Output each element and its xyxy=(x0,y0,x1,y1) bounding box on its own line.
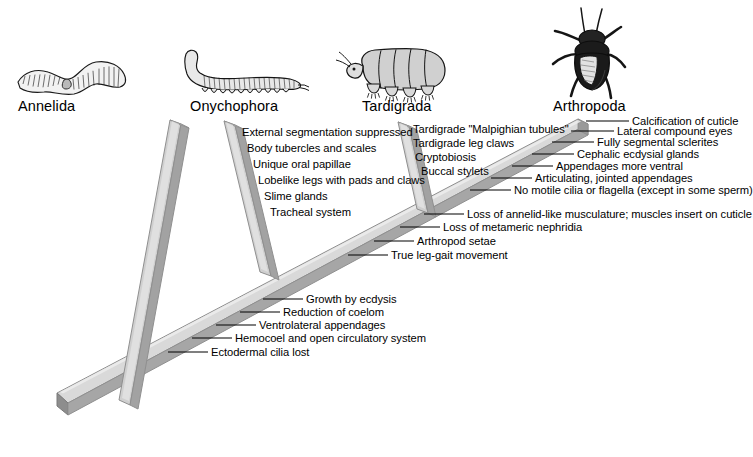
character-label-tardigrade-leg-claws: Tardigrade leg claws xyxy=(413,137,514,149)
character-label-external-segmentation: External segmentation suppressed xyxy=(242,126,413,138)
character-label-tracheal-system: Tracheal system xyxy=(270,206,351,218)
character-label-slime-glands: Slime glands xyxy=(264,190,327,202)
character-label-hemocoel: Hemocoel and open circulatory system xyxy=(235,332,426,344)
character-label-growth-by-ecdysis: Growth by ecdysis xyxy=(306,293,397,305)
character-label-leg-gait: True leg-gait movement xyxy=(391,249,508,261)
character-label-sclerites: Fully segmental sclerites xyxy=(597,136,718,148)
character-label-ecdysial-glands: Cephalic ecdysial glands xyxy=(577,148,699,160)
character-label-no-motile-cilia: No motile cilia or flagella (except in s… xyxy=(514,184,753,196)
waterbear-illustration xyxy=(336,49,445,103)
character-label-ventrolateral-appendages: Ventrolateral appendages xyxy=(259,319,385,331)
beetle-illustration xyxy=(553,8,625,98)
character-label-arthropod-setae: Arthropod setae xyxy=(417,235,496,247)
taxon-label-arthropoda: Arthropoda xyxy=(553,98,626,114)
character-label-malpighian-tubules: Tardigrade "Malpighian tubules" xyxy=(413,123,569,135)
character-label-lobelike-legs: Lobelike legs with pads and claws xyxy=(258,174,425,186)
character-label-oral-papillae: Unique oral papillae xyxy=(253,158,351,170)
taxon-label-tardigrada: Tardigrada xyxy=(362,98,432,114)
earthworm-illustration xyxy=(18,62,126,95)
character-label-metameric-nephridia: Loss of metameric nephridia xyxy=(443,221,582,233)
taxon-label-onychophora: Onychophora xyxy=(190,98,278,114)
character-label-ectodermal-cilia-lost: Ectodermal cilia lost xyxy=(211,346,309,358)
character-label-reduction-of-coelom: Reduction of coelom xyxy=(283,306,384,318)
character-label-body-tubercles: Body tubercles and scales xyxy=(247,142,376,154)
character-label-buccal-stylets: Buccal stylets xyxy=(421,165,489,177)
velvetworm-illustration xyxy=(185,50,309,93)
character-label-appendages-ventral: Appendages more ventral xyxy=(556,160,683,172)
character-label-cryptobiosis: Cryptobiosis xyxy=(415,151,476,163)
character-label-jointed-appendages: Articulating, jointed appendages xyxy=(535,172,693,184)
character-label-annelid-musculature: Loss of annelid-like musculature; muscle… xyxy=(467,208,752,220)
taxon-label-annelida: Annelida xyxy=(18,98,75,114)
